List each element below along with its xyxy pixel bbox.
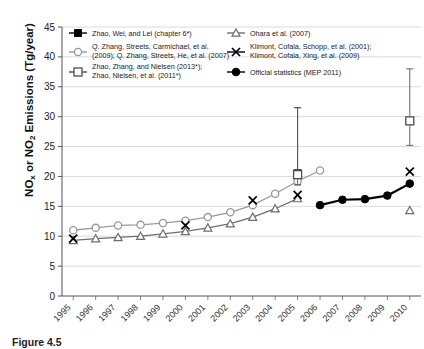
legend-label: Klimont, Cofala, Schopp, et al. (2001); [250, 42, 371, 51]
data-point-marker [271, 205, 279, 212]
figure-container: 051015202530354045 199519961997199819992… [0, 0, 424, 349]
data-point-marker [137, 221, 144, 228]
y-tick-label: 25 [44, 141, 56, 152]
data-point-marker [74, 68, 82, 76]
data-point-marker [406, 180, 414, 188]
x-tick-label: 2004 [253, 302, 274, 323]
x-tick-label: 2008 [343, 302, 364, 323]
y-tick-label: 40 [44, 51, 56, 62]
data-point-marker [74, 48, 81, 55]
y-tick-label: 15 [44, 201, 56, 212]
figure-caption: Figure 4.5 [12, 336, 62, 348]
chart-svg: 051015202530354045 199519961997199819992… [0, 0, 424, 349]
data-point-marker [316, 201, 324, 209]
data-point-marker [272, 190, 279, 197]
y-tick-label: 20 [44, 171, 56, 182]
y-axis-label: NOx or NO2 Emissions (Tg/year) [23, 0, 35, 235]
data-point-marker [114, 222, 121, 229]
legend-label: Klimont, Cofala, Xing, et al. (2009) [250, 51, 359, 60]
chart-legend: Zhao, Wei, and Lei (chapter 6*)Q. Zhang,… [66, 25, 418, 85]
data-point-marker [294, 171, 302, 179]
y-tick-label: 10 [44, 231, 56, 242]
y-tick-label: 35 [44, 81, 56, 92]
data-point-marker [92, 224, 99, 231]
data-point-marker [384, 192, 392, 200]
legend-item[interactable]: Ohara et al. (2007) [227, 29, 310, 38]
legend-label: Q. Zhang, Streets, Carmichael, et al. [92, 42, 209, 51]
legend-item[interactable]: Klimont, Cofala, Schopp, et al. (2001);K… [227, 42, 371, 60]
x-tick-label: 2002 [208, 302, 229, 323]
legend-item[interactable]: Official statistics (MEP 2011) [227, 68, 341, 77]
x-tick-label: 1995 [51, 302, 72, 323]
y-axis-label-middle: or NO [23, 140, 35, 175]
x-tick-label: 1996 [74, 302, 95, 323]
legend-label: Zhao, Zhang, and Nielsen (2013*); [92, 62, 202, 71]
y-tick-label: 5 [49, 261, 55, 272]
series-line [73, 170, 320, 230]
series-open-circle [70, 167, 324, 234]
y-axis-label-nox: NO [23, 180, 35, 197]
legend-item[interactable]: Zhao, Wei, and Lei (chapter 6*) [69, 29, 192, 38]
x-tick-label: 2009 [366, 302, 387, 323]
legend-label: Zhao, Nielsen, et al. (2011*) [92, 71, 181, 80]
x-tick-label: 2010 [388, 302, 409, 323]
y-axis-label-sub-2: 2 [28, 136, 37, 140]
x-tick-label: 2001 [186, 302, 207, 323]
data-point-marker [159, 219, 166, 226]
data-point-marker [361, 195, 369, 203]
y-axis-label-units: Emissions (Tg/year) [23, 23, 35, 135]
x-tick-label: 2006 [298, 302, 319, 323]
series-open-square [294, 69, 414, 185]
series-x-cross [69, 168, 414, 243]
x-axis-ticks: 1995199619971998199920002001200220032004… [51, 296, 409, 324]
series-filled-circle [316, 180, 413, 209]
legend-label: Zhao, Wei, and Lei (chapter 6*) [92, 29, 192, 38]
y-axis-label-sub-x: x [28, 175, 37, 179]
y-tick-label: 0 [49, 291, 55, 302]
data-point-marker [75, 30, 82, 37]
data-point-marker [339, 196, 347, 204]
error-bar [406, 69, 413, 146]
legend-item[interactable]: Q. Zhang, Streets, Carmichael, et al.(20… [69, 42, 229, 60]
chart-plot-area: 051015202530354045 199519961997199819992… [0, 0, 424, 349]
legend-label: Official statistics (MEP 2011) [250, 68, 341, 77]
x-tick-label: 2000 [164, 302, 185, 323]
data-point-marker [70, 227, 77, 234]
data-point-marker [204, 213, 211, 220]
x-tick-label: 2005 [276, 302, 297, 323]
data-series-group [69, 69, 414, 244]
x-tick-label: 2007 [321, 302, 342, 323]
data-point-marker [406, 168, 414, 176]
x-tick-label: 2003 [231, 302, 252, 323]
y-axis-ticks: 051015202530354045 [44, 22, 62, 302]
data-point-marker [227, 209, 234, 216]
legend-item[interactable]: Zhao, Zhang, and Nielsen (2013*);Zhao, N… [69, 62, 202, 80]
x-tick-label: 1999 [141, 302, 162, 323]
data-point-marker [406, 207, 414, 214]
legend-label: Ohara et al. (2007) [250, 29, 310, 38]
y-tick-label: 45 [44, 22, 56, 33]
x-tick-label: 1997 [96, 302, 117, 323]
x-tick-label: 1998 [119, 302, 140, 323]
legend-label: (2009); Q. Zhang, Streets, He, et al. (2… [92, 51, 229, 60]
data-point-marker [406, 117, 414, 125]
data-point-marker [232, 68, 240, 76]
data-point-marker [316, 167, 323, 174]
y-tick-label: 30 [44, 111, 56, 122]
